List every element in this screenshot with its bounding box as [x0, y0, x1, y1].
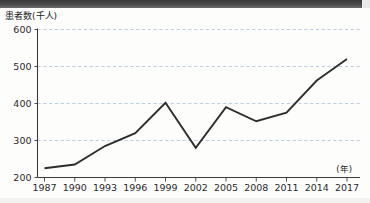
x-axis-tick-label: 1990 [63, 182, 87, 193]
y-axis-ticks-group: 200300400500600 [13, 24, 37, 183]
y-axis-tick-label: 300 [13, 135, 31, 146]
y-axis-tick-label: 600 [13, 24, 31, 35]
x-axis-unit-label: (年) [336, 164, 352, 174]
x-axis-tick-label: 1987 [32, 182, 56, 193]
plot-area: 200300400500600 198719901993199619992002… [0, 0, 370, 203]
x-axis-tick-label: 1993 [93, 182, 117, 193]
data-series-line [45, 59, 348, 168]
x-axis-tick-label: 2014 [305, 182, 329, 193]
x-axis-tick-label: 2017 [335, 182, 359, 193]
x-axis-ticks-group: 1987199019931996199920022005200820112014… [32, 178, 359, 194]
y-axis-tick-label: 400 [13, 98, 31, 109]
x-axis-tick-label: 2008 [244, 182, 268, 193]
chart-page: 患者数(千人) 200300400500600 1987199019931996… [0, 0, 370, 203]
x-axis-tick-label: 1996 [123, 182, 147, 193]
line-chart-svg: 200300400500600 198719901993199619992002… [0, 0, 370, 203]
y-axis-tick-label: 500 [13, 61, 31, 72]
x-axis-tick-label: 2005 [214, 182, 238, 193]
x-axis-tick-label: 2011 [274, 182, 298, 193]
y-axis-tick-label: 200 [13, 172, 31, 183]
x-axis-tick-label: 2002 [184, 182, 208, 193]
x-axis-tick-label: 1999 [153, 182, 177, 193]
